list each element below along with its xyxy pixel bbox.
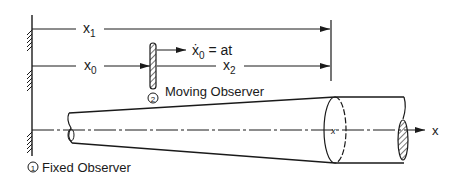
fixed-wall: [27, 15, 32, 156]
velocity-arrow: ẋ0 = at: [157, 42, 232, 61]
x0-dimension: x0: [32, 57, 150, 76]
svg-text:x: x: [330, 126, 336, 136]
svg-text:2: 2: [151, 95, 156, 104]
axis-label: x: [432, 123, 439, 138]
x2-label: x2: [223, 57, 236, 76]
x-axis: x: [32, 123, 439, 138]
fixed-observer-label: 1 Fixed Observer: [28, 160, 132, 175]
svg-text:Moving Observer: Moving Observer: [165, 84, 265, 99]
x2-dimension: x2: [157, 57, 330, 76]
svg-text:Fixed Observer: Fixed Observer: [42, 160, 132, 175]
observer-diagram: x1 x0 ẋ0 = at x2 2 Moving Observer: [0, 0, 461, 182]
x1-label: x1: [83, 20, 96, 39]
x0-label: x0: [84, 57, 97, 76]
moving-observer-bar: [150, 43, 156, 89]
x1-dimension: x1: [32, 20, 330, 39]
moving-observer-label: 2 Moving Observer: [148, 84, 265, 104]
svg-text:1: 1: [31, 164, 36, 173]
